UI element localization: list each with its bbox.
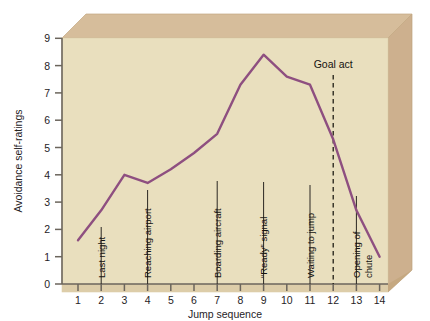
- y-tick-label-2: 2: [44, 223, 50, 235]
- y-tick-label-1: 1: [44, 251, 50, 263]
- x-tick-label-2: 2: [98, 294, 104, 306]
- goal-act-label: Goal act: [314, 58, 353, 70]
- x-tick-label-14: 14: [374, 294, 386, 306]
- x-tick-label-10: 10: [281, 294, 293, 306]
- x-tick-label-1: 1: [75, 294, 81, 306]
- x-tick-label-7: 7: [214, 294, 220, 306]
- y-tick-label-0: 0: [44, 278, 50, 290]
- x-tick-label-12: 12: [327, 294, 339, 306]
- x-axis-title: Jump sequence: [188, 308, 262, 320]
- y-axis-title: Avoidance self-ratings: [12, 109, 24, 212]
- plot-area-face: [62, 38, 388, 292]
- slab-right-face: [388, 14, 412, 292]
- y-tick-label-6: 6: [44, 114, 50, 126]
- line-chart: 0 1 2 3 4 5 6 7 8 9 1 2: [0, 0, 430, 321]
- y-tick-label-9: 9: [44, 32, 50, 44]
- y-tick-label-7: 7: [44, 87, 50, 99]
- y-tick-label-4: 4: [44, 169, 50, 181]
- y-tick-label-3: 3: [44, 196, 50, 208]
- figure-container: 0 1 2 3 4 5 6 7 8 9 1 2: [0, 0, 430, 321]
- x-tick-label-9: 9: [261, 294, 267, 306]
- y-tick-label-5: 5: [44, 142, 50, 154]
- y-tick-label-8: 8: [44, 60, 50, 72]
- x-tick-label-4: 4: [145, 294, 151, 306]
- annotation-label-reaching-airport: Reaching airport: [142, 208, 153, 278]
- annotation-label-ready-signal: “Ready” signal: [258, 217, 269, 278]
- x-tick-label-6: 6: [191, 294, 197, 306]
- annotation-label-last-night: Last night: [96, 236, 107, 278]
- slab-top-face: [62, 14, 412, 38]
- x-tick-label-13: 13: [351, 294, 363, 306]
- slab-bottom-bevel: [62, 284, 388, 292]
- annotation-label-waiting-to-jump: Waiting to jump: [305, 213, 316, 278]
- x-tick-label-5: 5: [168, 294, 174, 306]
- y-axis-ticks: 0 1 2 3 4 5 6 7 8 9: [44, 32, 62, 290]
- annotation-label-boarding-aircraft: Boarding aircraft: [212, 208, 223, 278]
- x-tick-label-3: 3: [121, 294, 127, 306]
- x-tick-label-8: 8: [237, 294, 243, 306]
- x-tick-label-11: 11: [305, 294, 316, 306]
- annotation-label-chute: chute: [363, 255, 374, 278]
- annotation-label-opening-of: Opening of: [351, 231, 362, 278]
